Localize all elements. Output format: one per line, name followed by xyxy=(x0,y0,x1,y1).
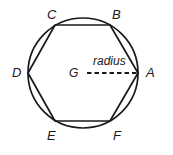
center-label-g: G xyxy=(69,67,78,79)
geometry-figure: A B C D E F G radius xyxy=(0,0,173,155)
vertex-label-d: D xyxy=(12,66,21,79)
vertex-label-e: E xyxy=(47,129,56,142)
vertex-label-a: A xyxy=(146,66,155,79)
radius-label: radius xyxy=(93,55,126,67)
vertex-label-b: B xyxy=(112,8,121,21)
vertex-label-c: C xyxy=(47,8,56,21)
vertex-label-f: F xyxy=(113,129,121,142)
